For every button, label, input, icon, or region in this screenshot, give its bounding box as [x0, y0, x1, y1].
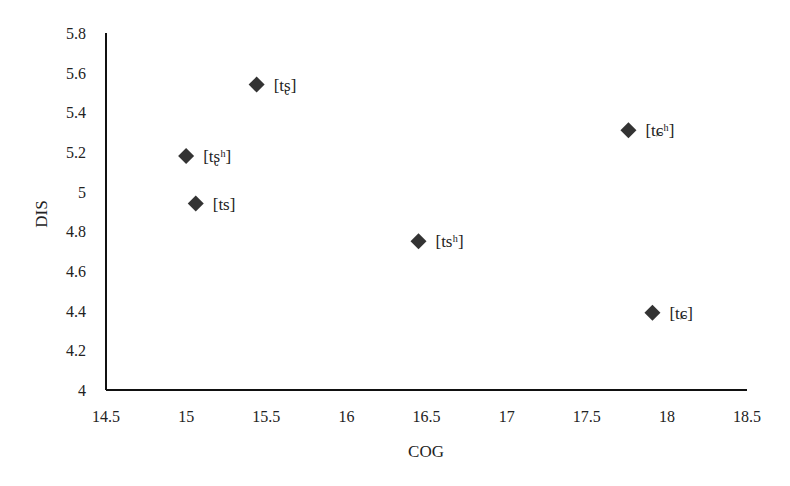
data-point: [tʂ]: [249, 76, 297, 95]
diamond-marker-icon: [188, 196, 204, 212]
x-tick-label: 16: [338, 408, 354, 425]
data-point: [ts]: [188, 195, 236, 214]
x-tick-label: 17.5: [573, 408, 601, 425]
x-tick-label: 15: [178, 408, 194, 425]
y-tick-label: 4: [78, 382, 86, 399]
y-tick-label: 5.2: [66, 144, 86, 161]
point-label: [tsʰ]: [435, 232, 463, 251]
y-tick-label: 4.4: [66, 303, 86, 320]
x-axis-title: COG: [408, 442, 444, 461]
data-point: [tɕʰ]: [620, 121, 674, 140]
point-label: [tʂ]: [274, 76, 297, 95]
x-tick-label: 18: [659, 408, 675, 425]
data-point: [tɕ]: [644, 304, 693, 323]
scatter-chart: 44.24.44.64.855.25.45.65.8 14.51515.5161…: [0, 0, 790, 486]
y-tick-label: 5: [78, 184, 86, 201]
point-label: [ts]: [213, 195, 236, 214]
y-axis-ticks: 44.24.44.64.855.25.45.65.8: [66, 25, 86, 399]
diamond-marker-icon: [410, 233, 426, 249]
y-tick-label: 5.8: [66, 25, 86, 42]
diamond-marker-icon: [644, 305, 660, 321]
point-label: [tʂʰ]: [203, 147, 231, 166]
y-tick-label: 4.2: [66, 342, 86, 359]
x-tick-label: 17: [499, 408, 515, 425]
y-tick-label: 5.4: [66, 104, 86, 121]
x-axis-ticks: 14.51515.51616.51717.51818.5: [92, 408, 761, 425]
y-tick-label: 4.6: [66, 263, 86, 280]
point-label: [tɕʰ]: [645, 121, 674, 140]
data-point: [tʂʰ]: [178, 147, 231, 166]
diamond-marker-icon: [178, 148, 194, 164]
x-tick-label: 16.5: [413, 408, 441, 425]
data-point: [tsʰ]: [410, 232, 463, 251]
y-axis-title: DIS: [32, 200, 51, 227]
y-tick-label: 5.6: [66, 65, 86, 82]
point-label: [tɕ]: [669, 304, 693, 323]
diamond-marker-icon: [249, 77, 265, 93]
x-tick-label: 14.5: [92, 408, 120, 425]
x-tick-label: 15.5: [252, 408, 280, 425]
x-tick-label: 18.5: [733, 408, 761, 425]
data-points: [tʂ][tʂʰ][ts][tsʰ][tɕʰ][tɕ]: [178, 76, 693, 323]
diamond-marker-icon: [620, 122, 636, 138]
y-tick-label: 4.8: [66, 223, 86, 240]
